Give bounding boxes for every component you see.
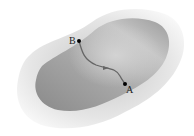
point-b [77,39,81,43]
label-a: A [126,84,134,95]
surface-diagram: B A [0,0,194,136]
label-b: B [69,35,76,46]
